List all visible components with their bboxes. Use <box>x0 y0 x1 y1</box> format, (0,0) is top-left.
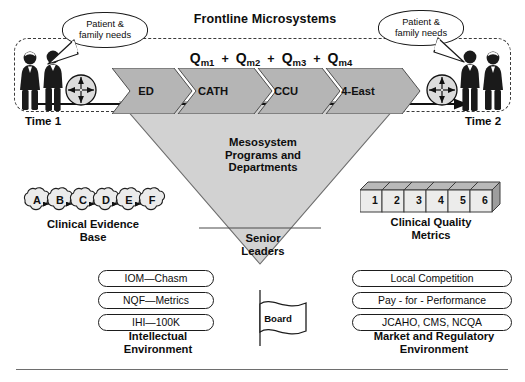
compass-icon-right <box>424 72 460 108</box>
quality-formula: Qm1+Qm2+Qm3+Qm4 <box>126 50 416 66</box>
cloud-letter-b: B <box>52 194 68 206</box>
chevron-label-ed: ED <box>118 85 174 97</box>
senior-leaders-label: Senior Leaders <box>220 232 306 257</box>
formula-plus-2: + <box>267 52 274 66</box>
block-number-2: 2 <box>387 194 407 206</box>
compass-icon-left <box>63 72 99 108</box>
block-number-6: 6 <box>475 194 495 206</box>
cloud-letter-a: A <box>29 194 45 206</box>
pill-pay-for-performance[interactable]: Pay - for - Performance <box>352 292 512 309</box>
qm-term-3: Qm3 <box>282 50 307 66</box>
cloud-letter-c: C <box>75 194 91 206</box>
cloud-letter-d: D <box>98 194 114 206</box>
pill-iom-chasm[interactable]: IOM—Chasm <box>98 270 214 287</box>
mesosystem-label: Mesosystem Programs and Departments <box>200 136 326 174</box>
qm-term-1: Qm1 <box>190 50 215 66</box>
pill-ihi-100k[interactable]: IHI—100K <box>98 314 214 331</box>
chevron-label-cath: CATH <box>182 85 244 97</box>
formula-plus-3: + <box>313 52 320 66</box>
block-number-1: 1 <box>365 194 385 206</box>
chevron-label-4east: 4-East <box>326 85 390 97</box>
block-number-4: 4 <box>431 194 451 206</box>
speech-bubble-tail-right <box>430 36 472 64</box>
block-number-5: 5 <box>453 194 473 206</box>
diagram-canvas: Frontline Microsystems Mesosystem Progra… <box>0 0 525 382</box>
board-label: Board <box>252 314 304 325</box>
pill-nqf-metrics[interactable]: NQF—Metrics <box>98 292 214 309</box>
cloud-letter-e: E <box>121 194 137 206</box>
block-number-3: 3 <box>409 194 429 206</box>
qm-term-2: Qm2 <box>236 50 261 66</box>
pill-local-competition[interactable]: Local Competition <box>352 270 512 287</box>
formula-plus-1: + <box>221 52 228 66</box>
chevron-label-ccu: CCU <box>258 85 314 97</box>
pill-jcaho-cms-ncqa[interactable]: JCAHO, CMS, NCQA <box>352 314 512 331</box>
speech-bubble-tail-left <box>44 38 82 66</box>
qm-term-4: Qm4 <box>328 50 353 66</box>
cloud-letter-f: F <box>144 194 160 206</box>
